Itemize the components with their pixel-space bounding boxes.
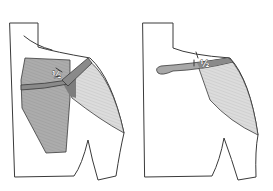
right-figure: ½ [143, 23, 258, 180]
shoulder-diagrams: ½ ½ [0, 0, 273, 191]
right-half-marker: ½ [200, 59, 209, 69]
right-light-region [197, 58, 258, 135]
left-half-marker: ½ [52, 70, 61, 80]
diagram-canvas: ½ ½ [0, 0, 273, 191]
left-figure: ½ [10, 23, 124, 180]
right-marker-tick-1 [196, 52, 198, 58]
left-dark-region [21, 58, 70, 153]
